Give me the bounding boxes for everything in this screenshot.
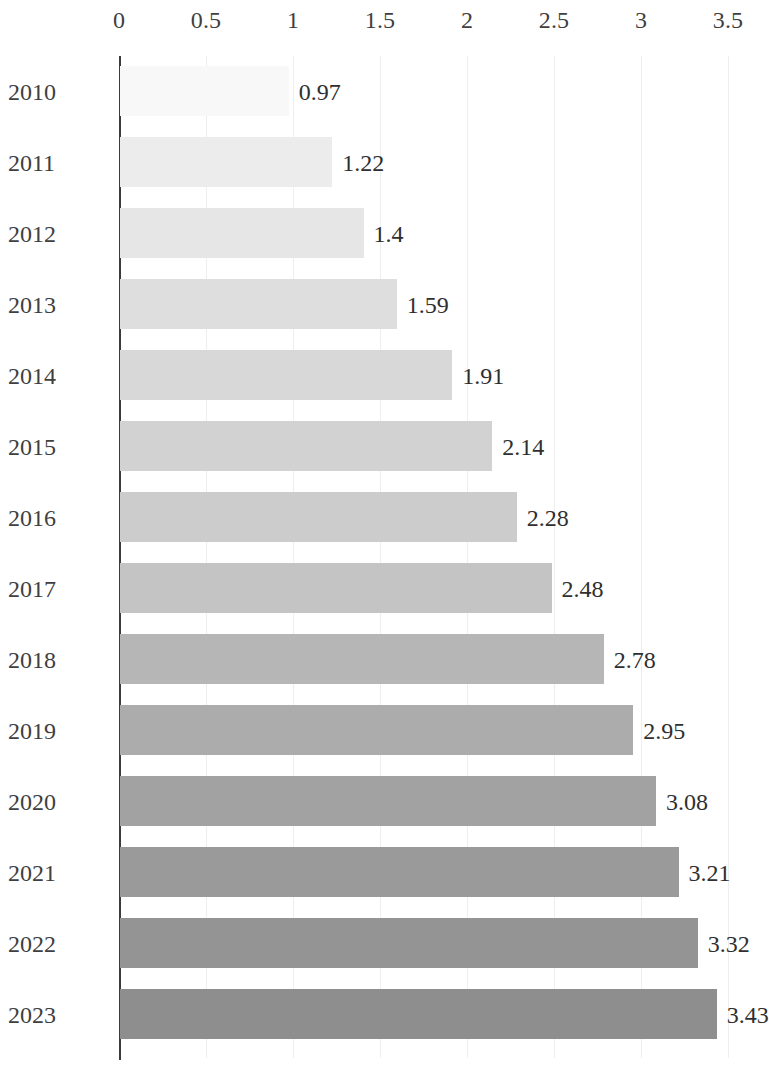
bar-value-label-2012: 1.4 [374, 220, 404, 248]
bar-value-label-2022: 3.32 [708, 930, 750, 958]
category-label-2016: 2016 [8, 504, 106, 532]
category-label-2011: 2011 [8, 149, 106, 177]
bar-value-label-2015: 2.14 [502, 433, 544, 461]
bar-value-label-2023: 3.43 [727, 1001, 769, 1029]
bar-value-label-2014: 1.91 [462, 362, 504, 390]
bar-row: 20213.21 [0, 837, 750, 908]
bar-value-label-2010: 0.97 [299, 78, 341, 106]
bar-2019[interactable] [120, 705, 633, 755]
bar-value-label-2017: 2.48 [562, 575, 604, 603]
category-label-2014: 2014 [8, 362, 106, 390]
bar-2014[interactable] [120, 350, 452, 400]
bar-2016[interactable] [120, 492, 517, 542]
x-tick-label: 1.5 [365, 6, 396, 34]
bar-value-label-2021: 3.21 [689, 859, 731, 887]
bar-value-label-2019: 2.95 [643, 717, 685, 745]
x-tick-label: 2 [461, 6, 473, 34]
bar-row: 20172.48 [0, 553, 750, 624]
bar-row: 20100.97 [0, 56, 750, 127]
category-label-2015: 2015 [8, 433, 106, 461]
bar-row: 20203.08 [0, 766, 750, 837]
bar-row: 20121.4 [0, 198, 750, 269]
bar-2023[interactable] [120, 989, 717, 1039]
bar-row: 20152.14 [0, 411, 750, 482]
bar-row: 20141.91 [0, 340, 750, 411]
category-label-2021: 2021 [8, 859, 106, 887]
bar-row: 20223.32 [0, 908, 750, 979]
category-label-2019: 2019 [8, 717, 106, 745]
bar-value-label-2013: 1.59 [407, 291, 449, 319]
bars-layer: 20100.9720111.2220121.420131.5920141.912… [0, 48, 750, 1058]
bar-row: 20192.95 [0, 695, 750, 766]
bar-2015[interactable] [120, 421, 492, 471]
plot-area: 20100.9720111.2220121.420131.5920141.912… [0, 48, 750, 1073]
bar-value-label-2016: 2.28 [527, 504, 569, 532]
bar-row: 20131.59 [0, 269, 750, 340]
bar-2017[interactable] [120, 563, 552, 613]
x-tick-label: 0 [113, 6, 125, 34]
category-label-2018: 2018 [8, 646, 106, 674]
category-label-2012: 2012 [8, 220, 106, 248]
category-label-2022: 2022 [8, 930, 106, 958]
bar-2018[interactable] [120, 634, 604, 684]
bar-2021[interactable] [120, 847, 679, 897]
category-label-2013: 2013 [8, 291, 106, 319]
bar-2013[interactable] [120, 279, 397, 329]
x-tick-label: 0.5 [191, 6, 222, 34]
bar-2012[interactable] [120, 208, 364, 258]
bar-row: 20111.22 [0, 127, 750, 198]
bar-value-label-2020: 3.08 [666, 788, 708, 816]
x-tick-label: 3.5 [713, 6, 744, 34]
bar-2020[interactable] [120, 776, 656, 826]
bar-row: 20233.43 [0, 979, 750, 1050]
bar-2011[interactable] [120, 137, 332, 187]
category-label-2023: 2023 [8, 1001, 106, 1029]
bar-row: 20162.28 [0, 482, 750, 553]
category-label-2020: 2020 [8, 788, 106, 816]
bar-2010[interactable] [120, 66, 289, 116]
category-label-2017: 2017 [8, 575, 106, 603]
category-label-2010: 2010 [8, 78, 106, 106]
bar-2022[interactable] [120, 918, 698, 968]
bar-row: 20182.78 [0, 624, 750, 695]
x-axis-tick-labels: 00.511.522.533.5 [0, 0, 750, 48]
x-tick-label: 2.5 [539, 6, 570, 34]
bar-value-label-2018: 2.78 [614, 646, 656, 674]
bar-value-label-2011: 1.22 [342, 149, 384, 177]
x-tick-label: 1 [287, 6, 299, 34]
x-tick-label: 3 [635, 6, 647, 34]
